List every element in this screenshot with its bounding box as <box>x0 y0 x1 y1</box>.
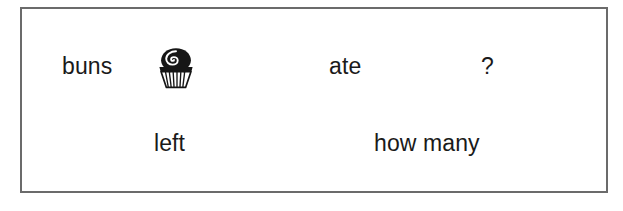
words-how-many: how many <box>374 132 480 155</box>
bun-cupcake-icon <box>154 43 198 91</box>
word-buns: buns <box>62 55 112 78</box>
worksheet-canvas: buns <box>0 0 623 211</box>
word-left: left <box>154 132 185 155</box>
problem-frame: buns <box>20 7 608 193</box>
question-mark: ? <box>481 55 494 78</box>
word-ate: ate <box>329 55 361 78</box>
